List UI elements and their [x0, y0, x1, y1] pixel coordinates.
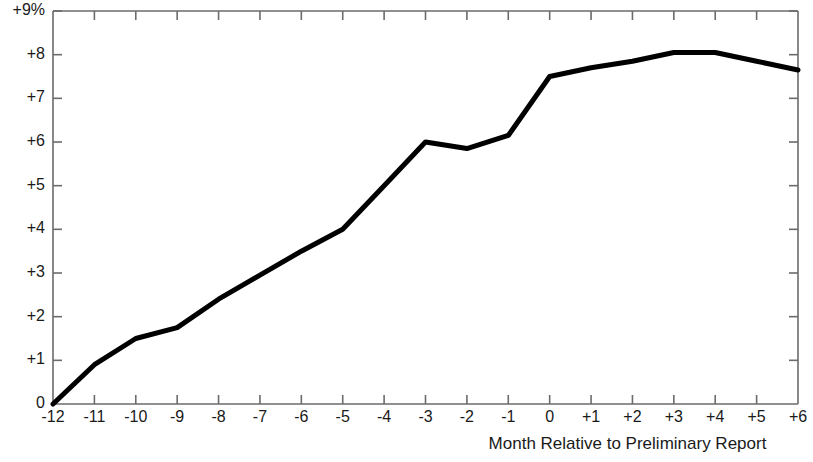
x-axis-tick-label: +1	[569, 408, 613, 426]
y-axis-tick-label: +7	[0, 88, 45, 106]
chart-figure: 0+1+2+3+4+5+6+7+8+9% -12-11-10-9-8-7-6-5…	[0, 0, 813, 462]
x-axis-tick-label: +6	[776, 408, 813, 426]
y-axis-tick-label: +9%	[0, 1, 45, 19]
x-axis-tick-label: +5	[735, 408, 779, 426]
x-axis-tick-label: -4	[362, 408, 406, 426]
chart-data-line	[53, 52, 798, 404]
x-axis-tick-label: -6	[279, 408, 323, 426]
x-axis-tick-label: -8	[197, 408, 241, 426]
y-axis-tick-label: +2	[0, 307, 45, 325]
x-axis-tick-label: -3	[404, 408, 448, 426]
y-axis-tick-label: +3	[0, 263, 45, 281]
x-axis-tick-label: -12	[31, 408, 75, 426]
y-axis-tick-label: +6	[0, 132, 45, 150]
y-axis-tick-label: +5	[0, 176, 45, 194]
x-axis-tick-label: +2	[610, 408, 654, 426]
x-axis-tick-label: -7	[238, 408, 282, 426]
x-axis-tick-label: -11	[72, 408, 116, 426]
chart-plot-area	[0, 0, 813, 462]
x-axis-tick-label: -9	[155, 408, 199, 426]
y-axis-tick-label: +1	[0, 350, 45, 368]
y-axis-tick-label: +4	[0, 219, 45, 237]
x-axis-tick-label: +3	[652, 408, 696, 426]
chart-axes	[53, 11, 798, 404]
x-axis-tick-label: +4	[693, 408, 737, 426]
x-axis-tick-label: -5	[321, 408, 365, 426]
x-axis-tick-label: -2	[445, 408, 489, 426]
y-axis-tick-label: +8	[0, 45, 45, 63]
x-axis-tick-label: 0	[528, 408, 572, 426]
x-axis-tick-label: -1	[486, 408, 530, 426]
x-axis-tick-label: -10	[114, 408, 158, 426]
x-axis-title: Month Relative to Preliminary Report	[455, 434, 800, 454]
chart-tick-marks	[53, 11, 798, 404]
